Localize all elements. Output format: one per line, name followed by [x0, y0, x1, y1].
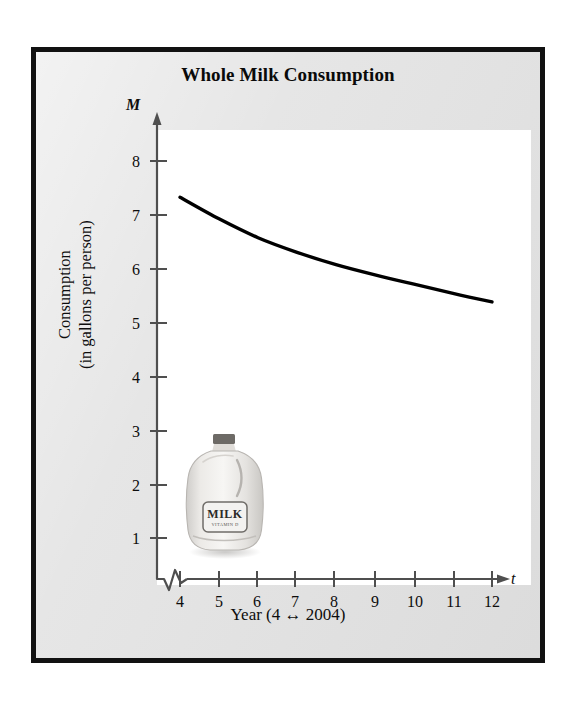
axis-break-zigzag	[157, 557, 187, 590]
x-axis-arrow	[497, 575, 510, 584]
x-axis-title: Year (4 ↔ 2004)	[36, 605, 540, 625]
chart-title: Whole Milk Consumption	[36, 64, 540, 86]
chart-svg	[36, 52, 550, 668]
y-tick-label-3: 3	[118, 424, 140, 440]
y-tick-label-7: 7	[118, 208, 140, 224]
y-tick-marks	[150, 161, 167, 538]
y-tick-label-2: 2	[118, 478, 140, 494]
y-axis-variable: M	[126, 96, 140, 114]
y-axis-title-line1: Consumption	[55, 175, 76, 415]
y-axis-title: Consumption (in gallons per person)	[55, 175, 96, 415]
figure-frame: Whole Milk Consumption	[31, 47, 545, 663]
y-tick-label-4: 4	[118, 370, 140, 386]
data-curve-whole-milk	[180, 197, 492, 302]
y-tick-label-1: 1	[118, 531, 140, 547]
y-axis-arrow	[153, 112, 162, 125]
y-tick-label-8: 8	[118, 154, 140, 170]
y-axis-title-line2: (in gallons per person)	[76, 175, 97, 415]
y-tick-label-5: 5	[118, 316, 140, 332]
x-axis-variable: t	[511, 570, 515, 588]
y-tick-label-6: 6	[118, 262, 140, 278]
